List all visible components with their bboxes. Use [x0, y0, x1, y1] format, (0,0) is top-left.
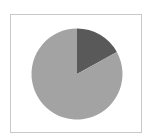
pie-chart	[0, 0, 149, 140]
pie-slices	[32, 29, 123, 120]
